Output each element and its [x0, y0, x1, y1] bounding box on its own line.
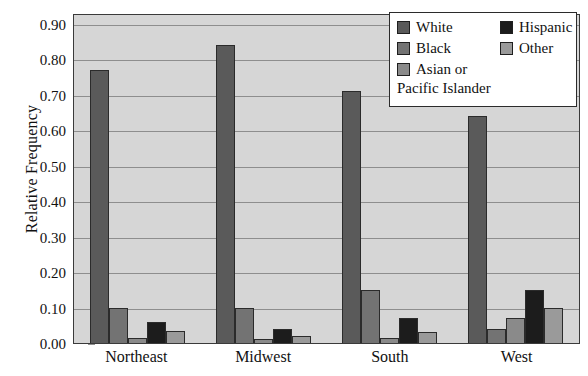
bar	[342, 91, 361, 343]
legend-item: White	[397, 18, 494, 39]
legend-label: Hispanic	[519, 18, 572, 37]
legend-column-right: HispanicOther	[500, 18, 570, 100]
bar	[109, 308, 128, 343]
legend-swatch	[500, 42, 513, 55]
x-axis-tick-label: South	[327, 348, 454, 366]
legend-label-line1: Asian or	[416, 60, 491, 79]
y-axis-tick-label: 0.60	[22, 123, 66, 140]
legend-swatch	[397, 21, 410, 34]
bar	[380, 338, 399, 343]
legend-item: Asian orPacific Islander	[397, 60, 494, 100]
bar	[292, 336, 311, 343]
y-axis-tick-label: 0.20	[22, 265, 66, 282]
bar	[487, 329, 506, 343]
legend-label: White	[416, 18, 453, 37]
legend-label-line2: Pacific Islander	[397, 79, 491, 98]
x-axis-tick-label: Northeast	[73, 348, 200, 366]
legend: WhiteBlackAsian orPacific Islander Hispa…	[389, 12, 577, 107]
bar	[361, 290, 380, 343]
y-axis-tick-label: 0.50	[22, 158, 66, 175]
y-axis-tick-label: 0.00	[22, 336, 66, 353]
bar	[399, 318, 418, 343]
bar	[525, 290, 544, 343]
bar-group	[74, 15, 200, 343]
legend-label: Asian orPacific Islander	[416, 60, 491, 98]
bar	[147, 322, 166, 343]
bar	[216, 45, 235, 343]
bar	[166, 331, 185, 343]
x-axis-tick-labels: NortheastMidwestSouthWest	[73, 348, 580, 366]
bar	[273, 329, 292, 343]
y-axis-tick-label: 0.90	[22, 16, 66, 33]
legend-swatch	[397, 42, 410, 55]
bar	[128, 338, 147, 343]
bar-chart: Relative Frequency 0.000.100.200.300.400…	[0, 0, 588, 376]
bar	[418, 332, 437, 343]
bar-group	[200, 15, 326, 343]
y-axis-tick-label: 0.30	[22, 229, 66, 246]
bar	[254, 339, 273, 343]
legend-item: Black	[397, 39, 494, 60]
legend-label: Black	[416, 39, 451, 58]
y-axis-tick-label: 0.80	[22, 52, 66, 69]
legend-column-left: WhiteBlackAsian orPacific Islander	[397, 18, 494, 100]
x-axis-tick-label: West	[453, 348, 580, 366]
x-axis-tick-label: Midwest	[200, 348, 327, 366]
legend-item: Hispanic	[500, 18, 570, 39]
legend-swatch	[500, 21, 513, 34]
bar	[468, 116, 487, 343]
legend-swatch	[397, 63, 410, 76]
bar	[235, 308, 254, 343]
bar	[90, 70, 109, 343]
legend-label: Other	[519, 39, 553, 58]
y-axis-tick-label: 0.40	[22, 194, 66, 211]
legend-item: Other	[500, 39, 570, 60]
bar	[544, 308, 563, 343]
y-axis-tick-label: 0.10	[22, 300, 66, 317]
y-axis-tick-label: 0.70	[22, 87, 66, 104]
bar	[506, 318, 525, 343]
y-axis-tick-labels: 0.000.100.200.300.400.500.600.700.800.90	[22, 14, 66, 344]
